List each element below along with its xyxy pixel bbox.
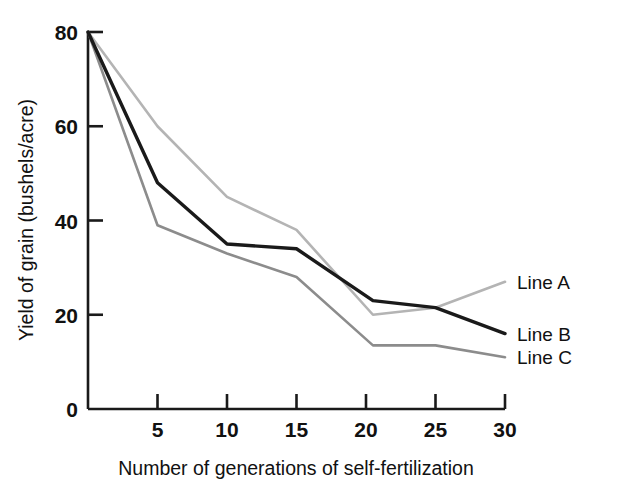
y-axis-ticks <box>88 32 103 315</box>
series-line-line-a <box>88 32 505 315</box>
series-line-line-b <box>88 32 505 334</box>
y-tick-label: 0 <box>66 398 78 421</box>
y-tick-label: 20 <box>55 304 78 327</box>
y-tick-label: 40 <box>55 210 78 233</box>
series-label-line-c: Line C <box>517 347 572 368</box>
x-axis-ticks <box>158 394 506 409</box>
series-label-line-a: Line A <box>517 272 570 293</box>
x-axis-title: Number of generations of self-fertilizat… <box>118 457 474 479</box>
series-label-line-b: Line B <box>517 324 571 345</box>
x-tick-label: 30 <box>493 418 516 441</box>
y-tick-label: 80 <box>55 21 78 44</box>
y-tick-label: 60 <box>55 115 78 138</box>
x-tick-label: 25 <box>424 418 448 441</box>
series-line-line-c <box>88 32 505 357</box>
x-tick-label: 10 <box>215 418 238 441</box>
series-labels-group: Line ALine BLine C <box>517 272 572 368</box>
chart-figure: 020406080 51015202530 Line ALine BLine C… <box>0 0 621 502</box>
y-axis-title: Yield of grain (bushels/acre) <box>15 99 37 341</box>
axis-lines <box>88 32 505 409</box>
data-series-group <box>88 32 505 357</box>
line-chart: 020406080 51015202530 Line ALine BLine C… <box>0 0 621 502</box>
x-tick-label: 5 <box>152 418 164 441</box>
x-tick-label: 20 <box>354 418 377 441</box>
x-axis-tick-labels: 51015202530 <box>152 418 517 441</box>
y-axis-tick-labels: 020406080 <box>55 21 78 421</box>
x-tick-label: 15 <box>285 418 309 441</box>
